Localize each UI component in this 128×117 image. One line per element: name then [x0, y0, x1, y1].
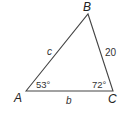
side-a-label: 20 [105, 47, 117, 58]
side-c-label: c [47, 46, 52, 57]
side-b-label: b [66, 95, 72, 106]
vertex-a-label: A [13, 91, 22, 105]
triangle-diagram: A B C c 20 b 53° 72° [0, 0, 128, 117]
vertex-b-label: B [83, 0, 91, 14]
angle-c-label: 72° [92, 79, 107, 90]
angle-a-label: 53° [36, 79, 51, 90]
vertex-c-label: C [108, 92, 117, 106]
